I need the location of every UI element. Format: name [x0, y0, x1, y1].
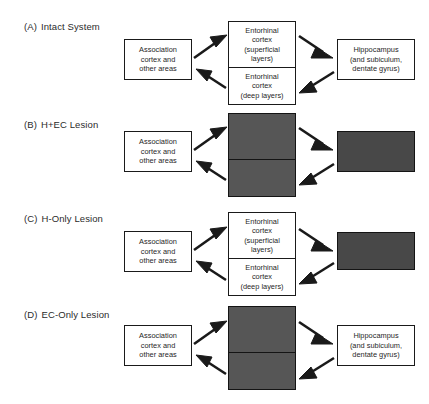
panel-d-ec-deep-node[interactable]: Entorhinal cortex (deep layers) — [228, 352, 296, 390]
association-label: Association cortex and other areas — [137, 45, 179, 73]
panel-a-label: (A)Intact System — [24, 21, 100, 32]
panel-a-ec-deep-node[interactable]: Entorhinal cortex (deep layers) — [228, 67, 296, 105]
arrow-association-to-ec-superficial — [194, 233, 218, 250]
arrow-hippocampus-to-ec-deep — [310, 263, 334, 278]
arrow-ec-deep-to-association — [206, 267, 226, 280]
arrow-hippocampus-to-ec-deep — [310, 72, 334, 87]
panel-c-association-node[interactable]: Association cortex and other areas — [124, 231, 192, 272]
arrow-hippocampus-to-ec-deep — [310, 164, 334, 179]
arrow-hippocampus-to-ec-deep — [310, 358, 334, 373]
arrowhead-hippocampus-to-ec-deep — [299, 81, 317, 93]
panel-c: (C)H-Only Lesion Association cortex and … — [0, 200, 429, 295]
panel-a-title: Intact System — [41, 21, 100, 32]
panel-c-title: H-Only Lesion — [42, 213, 104, 224]
arrowhead-association-to-ec-superficial — [210, 321, 227, 333]
panel-b-ec-superficial-node[interactable]: Entorhinal cortex (superficial layers) — [228, 113, 296, 160]
arrowhead-ec-deep-to-association — [196, 261, 212, 273]
arrowhead-ec-superficial-to-hippocampus — [311, 139, 333, 150]
hippocampus-label: Hippocampus (and subiculum, dentate gyru… — [348, 45, 404, 73]
panel-d-label: (D)EC-Only Lesion — [24, 309, 109, 320]
panel-b-title: H+EC Lesion — [41, 119, 98, 130]
panel-b-tag: (B) — [24, 119, 37, 130]
hippocampus-label: Hippocampus (and subiculum, dentate gyru… — [348, 331, 404, 359]
panel-a-association-node[interactable]: Association cortex and other areas — [124, 39, 192, 80]
ec-deep-label: Entorhinal cortex (deep layers) — [238, 263, 285, 291]
arrowhead-association-to-ec-superficial — [210, 127, 227, 139]
panel-d-association-node[interactable]: Association cortex and other areas — [124, 325, 192, 366]
arrowhead-ec-deep-to-association — [196, 69, 212, 81]
panel-a-hippocampus-node[interactable]: Hippocampus (and subiculum, dentate gyru… — [337, 39, 415, 80]
panel-b-association-node[interactable]: Association cortex and other areas — [124, 131, 192, 172]
panel-a-ec-superficial-node[interactable]: Entorhinal cortex (superficial layers) — [228, 21, 296, 68]
arrowhead-association-to-ec-superficial — [210, 35, 227, 47]
ec-superficial-label: Entorhinal cortex (superficial layers) — [242, 217, 282, 255]
panel-a: (A)Intact System Association cortex and … — [0, 0, 429, 105]
arrowhead-ec-deep-to-association — [196, 161, 212, 173]
panel-d: (D)EC-Only Lesion Association cortex and… — [0, 295, 429, 404]
association-label: Association cortex and other areas — [137, 331, 179, 359]
arrow-association-to-ec-superficial — [194, 133, 218, 150]
arrowhead-hippocampus-to-ec-deep — [299, 272, 317, 284]
arrowhead-association-to-ec-superficial — [210, 227, 227, 239]
ec-superficial-label: Entorhinal cortex (superficial layers) — [242, 26, 282, 64]
panel-a-tag: (A) — [24, 21, 37, 32]
arrowhead-ec-deep-to-association — [196, 355, 212, 367]
ec-deep-label: Entorhinal cortex (deep layers) — [238, 72, 285, 100]
arrow-ec-deep-to-association — [206, 75, 226, 88]
arrowhead-ec-superficial-to-hippocampus — [311, 240, 333, 251]
arrow-ec-superficial-to-hippocampus — [299, 128, 323, 144]
arrow-ec-superficial-to-hippocampus — [299, 229, 323, 245]
panel-c-tag: (C) — [24, 213, 38, 224]
panel-b-ec-deep-node[interactable]: Entorhinal cortex (deep layers) — [228, 159, 296, 197]
association-label: Association cortex and other areas — [137, 137, 179, 165]
panel-d-hippocampus-node[interactable]: Hippocampus (and subiculum, dentate gyru… — [337, 325, 415, 366]
arrow-association-to-ec-superficial — [194, 327, 218, 344]
arrow-association-to-ec-superficial — [194, 41, 218, 58]
arrow-ec-superficial-to-hippocampus — [299, 322, 323, 338]
arrow-ec-deep-to-association — [206, 361, 226, 374]
association-label: Association cortex and other areas — [137, 237, 179, 265]
arrow-ec-superficial-to-hippocampus — [299, 36, 323, 52]
panel-d-ec-superficial-node[interactable]: Entorhinal cortex (superficial layers) — [228, 306, 296, 353]
arrowhead-hippocampus-to-ec-deep — [299, 173, 317, 185]
panel-c-ec-deep-node[interactable]: Entorhinal cortex (deep layers) — [228, 258, 296, 296]
panel-b-label: (B)H+EC Lesion — [24, 119, 98, 130]
panel-c-label: (C)H-Only Lesion — [24, 213, 103, 224]
panel-c-ec-superficial-node[interactable]: Entorhinal cortex (superficial layers) — [228, 212, 296, 259]
arrow-ec-deep-to-association — [206, 167, 226, 180]
panel-d-title: EC-Only Lesion — [42, 309, 110, 320]
arrowhead-ec-superficial-to-hippocampus — [311, 47, 333, 58]
arrowhead-hippocampus-to-ec-deep — [299, 367, 317, 379]
panel-d-tag: (D) — [24, 309, 38, 320]
panel-c-hippocampus-node[interactable]: Hippocampus (and subiculum, dentate gyru… — [337, 232, 415, 270]
arrowhead-ec-superficial-to-hippocampus — [311, 333, 333, 344]
panel-b-hippocampus-node[interactable]: Hippocampus (and subiculum, dentate gyru… — [337, 131, 415, 172]
panel-b: (B)H+EC Lesion Association cortex and ot… — [0, 105, 429, 200]
